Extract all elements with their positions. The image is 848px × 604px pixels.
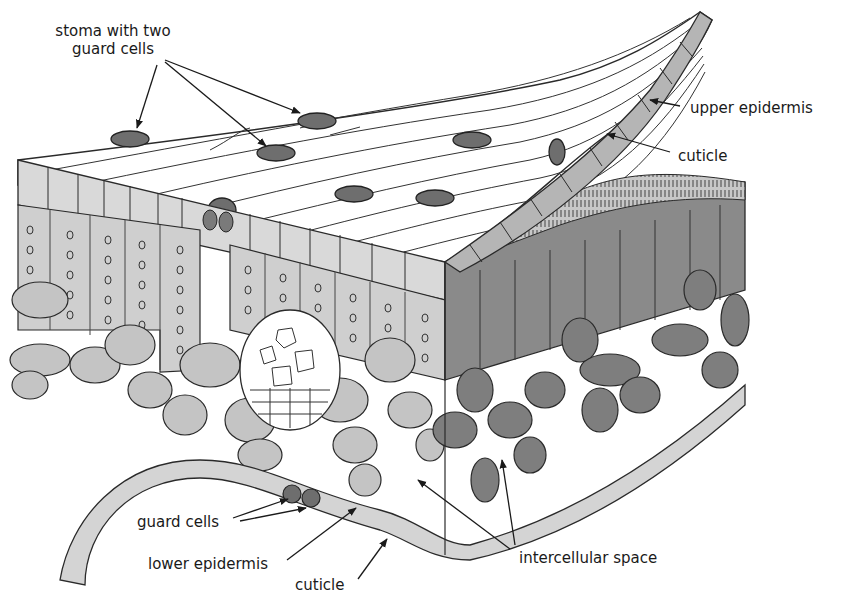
label-cuticle-upper: cuticle: [678, 147, 727, 165]
arrow-cuticle-lower: [358, 539, 387, 579]
label-cuticle-lower: cuticle: [295, 576, 344, 594]
label-line: guard cells: [48, 40, 178, 58]
label-upper-epidermis: upper epidermis: [690, 99, 813, 117]
label-line: stoma with two: [48, 22, 178, 40]
arrow-stoma-with-two-guard-cells: [137, 65, 157, 128]
arrow-stoma-with-two-guard-cells: [165, 60, 300, 113]
arrow-lower-epidermis: [287, 508, 356, 560]
diagram-canvas: [0, 0, 848, 604]
vein: [240, 310, 340, 430]
label-stoma-with-two-guard-cells: stoma with two guard cells: [48, 22, 178, 58]
label-guard-cells: guard cells: [137, 513, 219, 531]
label-lower-epidermis: lower epidermis: [148, 555, 268, 573]
label-intercellular-space: intercellular space: [519, 549, 657, 567]
leaf-cross-section-diagram: stoma with two guard cells upper epiderm…: [0, 0, 848, 604]
arrow-stoma-with-two-guard-cells: [165, 62, 266, 146]
arrow-guard-cells: [240, 508, 306, 521]
arrow-guard-cells: [233, 499, 288, 518]
